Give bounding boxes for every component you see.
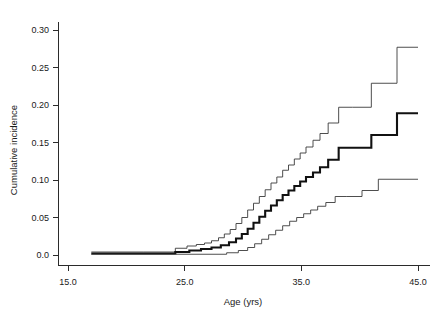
y-axis-ticks: 0.00.050.100.150.200.250.30: [31, 25, 58, 260]
x-tick-label: 15.0: [59, 277, 77, 287]
y-tick-label: 0.25: [31, 63, 49, 73]
lower-ci-curve: [91, 179, 418, 254]
y-tick-label: 0.15: [31, 138, 49, 148]
y-tick-label: 0.30: [31, 25, 49, 35]
x-tick-label: 45.0: [409, 277, 427, 287]
figure-container: Cumulative incidence Age (yrs) 0.00.050.…: [0, 0, 442, 315]
x-tick-label: 25.0: [176, 277, 194, 287]
y-tick-label: 0.10: [31, 175, 49, 185]
x-tick-label: 35.0: [293, 277, 311, 287]
point-estimate-curve: [91, 113, 418, 253]
y-axis-title: Cumulative incidence: [8, 105, 19, 195]
x-axis-title: Age (yrs): [224, 296, 263, 307]
y-tick-label: 0.0: [36, 250, 49, 260]
y-tick-label: 0.20: [31, 100, 49, 110]
upper-ci-curve: [91, 47, 418, 252]
cumulative-incidence-chart: Cumulative incidence Age (yrs) 0.00.050.…: [0, 0, 442, 315]
curve-group: [91, 47, 418, 254]
y-tick-label: 0.05: [31, 213, 49, 223]
x-axis-ticks: 15.025.035.045.0: [59, 266, 427, 288]
